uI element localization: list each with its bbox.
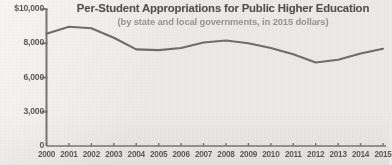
x-axis-tick-label: 2005 [150,150,167,159]
x-axis-tick-label: 2000 [38,150,55,159]
x-axis-tick-label: 2003 [105,150,122,159]
x-axis-tick-label: 2014 [352,150,369,159]
x-axis-label-group: 2000200120022003200420052006200720082009… [46,150,389,164]
x-axis-tick-label: 2006 [172,150,189,159]
x-axis-tick-label: 2010 [262,150,279,159]
x-axis-tick-label: 2009 [240,150,257,159]
y-axis-tick-label: 6,000 [0,72,44,82]
x-axis-tick-label: 2007 [195,150,212,159]
data-line-appropriations [47,27,384,63]
chart-title-block: Per-Student Appropriations for Public Hi… [58,1,388,28]
x-axis-tick-label: 2004 [128,150,145,159]
chart-subtitle: (by state and local governments, in 2015… [58,16,388,28]
x-axis-tick-label: 2013 [330,150,347,159]
y-axis-tick-label: 3,000 [0,106,44,116]
x-axis-tick-label: 2002 [83,150,100,159]
axis-group [47,9,387,146]
x-axis-tick-label: 2008 [217,150,234,159]
x-axis-tick-label: 2012 [307,150,324,159]
x-axis-tick-label: 2015 [374,150,391,159]
y-axis-tick-label: 8,000 [0,37,44,47]
x-axis-tick-label: 2011 [285,150,302,159]
x-axis-tick-label: 2001 [60,150,77,159]
chart-title: Per-Student Appropriations for Public Hi… [58,1,388,15]
y-axis-tick-label: $10,000 [0,3,44,13]
y-axis-label-group: $10,0008,0006,0003,0000 [0,0,44,165]
y-axis-tick-label: 0 [0,140,44,150]
